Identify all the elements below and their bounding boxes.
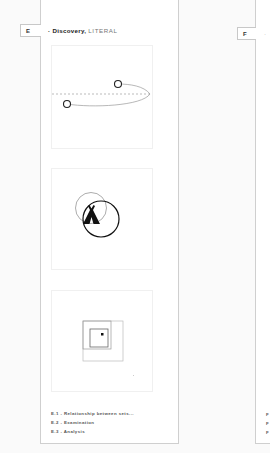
panel-e-title-sub: LITERAL bbox=[88, 27, 117, 34]
caption-e2[interactable]: E.2 - Examination bbox=[51, 420, 94, 425]
caption-f3[interactable]: F bbox=[266, 430, 269, 435]
caption-e1[interactable]: E.1 - Relationship between sets... bbox=[51, 411, 134, 416]
panel-f-title-main: · bbox=[264, 30, 266, 37]
examination-diagram[interactable] bbox=[51, 168, 153, 270]
orbit-path-icon bbox=[52, 46, 152, 148]
caption-f1[interactable]: F bbox=[266, 412, 269, 417]
caption-e3-text: Analysis bbox=[64, 429, 85, 434]
panel-e-title: · Discovery, LITERAL bbox=[48, 27, 118, 34]
caption-e2-num: E.2 bbox=[51, 420, 59, 425]
caption-e3[interactable]: E.3 - Analysis bbox=[51, 429, 85, 434]
panel-f-tab[interactable]: F bbox=[237, 27, 256, 40]
caption-e1-text: Relationship between sets... bbox=[64, 411, 134, 416]
caption-f2-num: F bbox=[266, 421, 269, 426]
caption-e1-num: E.1 bbox=[51, 411, 59, 416]
page-edge-left bbox=[0, 0, 40, 453]
panel-e-tab-label: E bbox=[26, 28, 30, 34]
panel-f-tab-label: F bbox=[243, 31, 247, 37]
caption-f3-num: F bbox=[266, 430, 269, 435]
panel-f-title: · bbox=[264, 30, 266, 37]
panel-f bbox=[255, 0, 270, 444]
tent-icon bbox=[52, 169, 152, 269]
caption-f2[interactable]: F bbox=[266, 421, 269, 426]
caption-f1-num: F bbox=[266, 412, 269, 417]
panel-e-title-main: · Discovery, bbox=[48, 27, 86, 34]
analysis-diagram[interactable] bbox=[51, 290, 153, 392]
nested-squares-icon bbox=[52, 291, 152, 391]
panel-e-tab[interactable]: E bbox=[20, 24, 41, 37]
caption-e2-text: Examination bbox=[64, 420, 95, 425]
caption-e3-num: E.3 bbox=[51, 429, 59, 434]
relationship-between-sets-diagram[interactable] bbox=[51, 45, 153, 149]
